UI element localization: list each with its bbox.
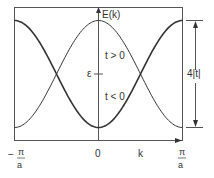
label-t-negative: t < 0 bbox=[105, 91, 125, 102]
k-axis-arrow-icon bbox=[175, 138, 182, 143]
band-diagram: E(k) t > 0 ε t < 0 4|t| − π a 0 k π a bbox=[0, 0, 214, 178]
epsilon-label: ε bbox=[87, 68, 92, 79]
bandwidth-up-arrow-icon bbox=[193, 21, 198, 28]
x-tick-left-sign: − bbox=[8, 149, 14, 160]
x-tick-right-numerator: π bbox=[179, 147, 185, 157]
label-t-positive: t > 0 bbox=[105, 50, 125, 61]
bandwidth-down-arrow-icon bbox=[193, 120, 198, 127]
x-tick-right-denominator: a bbox=[178, 160, 183, 170]
bandwidth-label: 4|t| bbox=[187, 68, 201, 79]
x-axis-label: k bbox=[138, 148, 144, 159]
energy-axis-label: E(k) bbox=[102, 9, 120, 20]
x-tick-left-numerator: π bbox=[18, 147, 24, 157]
x-tick-center: 0 bbox=[95, 148, 101, 159]
x-tick-left-denominator: a bbox=[17, 160, 22, 170]
